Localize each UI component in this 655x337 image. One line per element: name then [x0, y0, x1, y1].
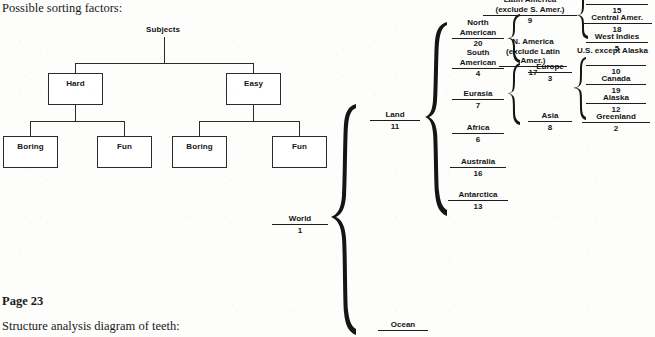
brace-term-europe-num: 3: [528, 73, 572, 83]
brace-term-ocean-name: Ocean: [378, 320, 428, 331]
brace-term-europe-name: Europe: [528, 62, 572, 73]
brace-term-latin-america-line2: (exclude S. Amer.): [483, 5, 577, 16]
brace-world: [330, 104, 364, 337]
brace-term-north-american-line2: American: [452, 28, 504, 39]
brace-term-africa-name: Africa: [452, 123, 504, 134]
brace-term-australia-num: 16: [450, 168, 506, 178]
brace-term-land-name: Land: [370, 110, 420, 121]
brace-term-africa: Africa 6: [452, 123, 504, 144]
brace-term-ocean-num: [378, 331, 428, 332]
brace-term-antarctica-num: 13: [448, 201, 508, 211]
next-section-caption: Structure analysis diagram of teeth:: [2, 319, 180, 334]
brace-term-greenland-num: 2: [582, 123, 650, 133]
brace-term-west-indies-name: West Indies: [586, 32, 648, 43]
brace-term-n-america-line2: (exclude Latin: [499, 47, 567, 57]
brace-term-europe: Europe 3: [528, 62, 572, 83]
brace-term-world-num: 1: [272, 225, 328, 235]
brace-term-eurasia-num: 7: [452, 100, 504, 110]
brace-term-eurasia-name: Eurasia: [452, 89, 504, 100]
brace-term-antarctica: Antarctica 13: [448, 190, 508, 211]
brace-term-alaska: Alaska 12: [586, 93, 646, 114]
scanned-page: Possible sorting factors: Subjects Hard …: [0, 0, 655, 337]
brace-term-us-except-alaska-value: 10: [586, 55, 646, 76]
brace-term-n-america-line1: N. America: [499, 37, 567, 47]
brace-term-central-amer: Central Amer. 18: [582, 13, 652, 34]
brace-land: [424, 22, 454, 218]
brace-term-central-amer-name: Central Amer.: [582, 13, 652, 24]
brace-term-north-american-num: 20: [452, 39, 504, 49]
brace-term-asia: Asia 8: [528, 111, 572, 132]
brace-term-canada: Canada 19: [586, 74, 646, 95]
brace-term-greenland-name: Greenland: [582, 112, 650, 123]
brace-term-us-rule: [586, 55, 646, 66]
world-structure-brace-diagram: World 1 Land 11 Ocean North American 20: [0, 0, 655, 337]
brace-term-south-american-line2: American: [452, 58, 504, 69]
brace-term-ocean: Ocean: [378, 320, 428, 332]
brace-term-world-name: World: [272, 214, 328, 225]
page-marker: Page 23: [2, 294, 43, 309]
brace-term-asia-num: 8: [528, 122, 572, 132]
brace-term-world: World 1: [272, 214, 328, 235]
brace-term-south-american-num: 4: [452, 69, 504, 79]
brace-term-greenland: Greenland 2: [582, 112, 650, 133]
brace-term-land: Land 11: [370, 110, 420, 131]
brace-term-south-american-line1: South: [452, 48, 504, 58]
brace-term-australia: Australia 16: [450, 157, 506, 178]
brace-term-africa-num: 6: [452, 134, 504, 144]
brace-term-land-num: 11: [370, 121, 420, 131]
brace-term-south-american: South American 4: [452, 48, 504, 79]
brace-term-canada-name: Canada: [586, 74, 646, 85]
brace-term-australia-name: Australia: [450, 157, 506, 168]
brace-eurasia: [506, 63, 523, 126]
brace-term-antarctica-name: Antarctica: [448, 190, 508, 201]
brace-term-alaska-name: Alaska: [586, 93, 646, 104]
brace-term-latin-america: Latin America (exclude S. Amer.) 9: [483, 0, 577, 26]
brace-term-eurasia: Eurasia 7: [452, 89, 504, 110]
brace-term-asia-name: Asia: [528, 111, 572, 122]
brace-term-latin-america-num: 9: [483, 16, 577, 26]
